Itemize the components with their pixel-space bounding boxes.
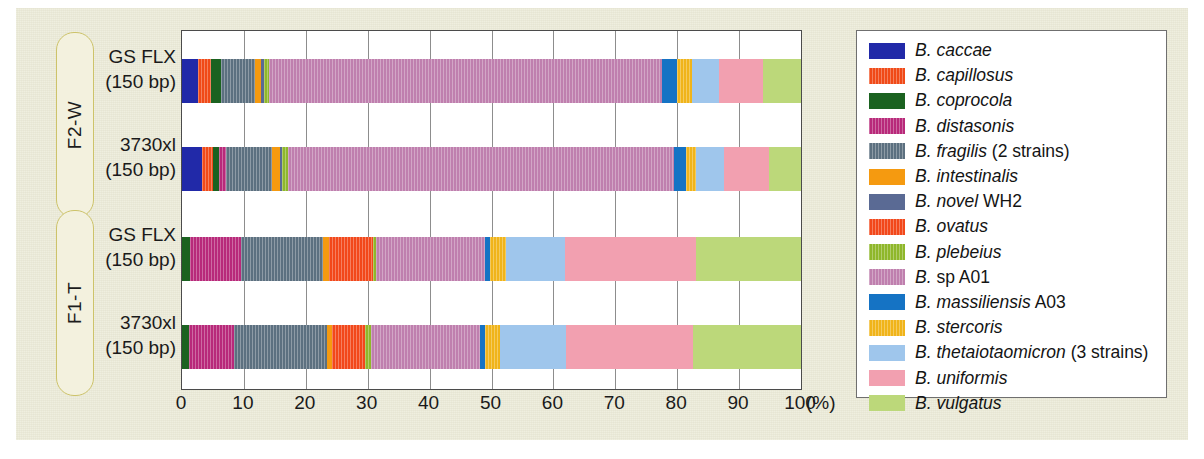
legend-swatch <box>869 194 905 210</box>
bar-segment <box>376 237 485 281</box>
legend-swatch <box>869 169 905 185</box>
x-tick-label: 80 <box>666 392 687 414</box>
bar-segment <box>506 237 564 281</box>
bar-segment <box>566 325 693 369</box>
row-label-platform: 3730xl <box>120 134 176 155</box>
bar-segment <box>226 147 272 191</box>
legend-swatch <box>869 143 905 159</box>
bar-segment <box>674 147 686 191</box>
legend-swatch <box>869 219 905 235</box>
bar-segment <box>190 237 241 281</box>
bar-segment <box>211 59 221 103</box>
bar-segment <box>763 59 801 103</box>
legend-label-species: B. coprocola <box>915 90 1012 110</box>
legend-label-species: B. uniformis <box>915 368 1007 388</box>
bar-segment <box>202 147 213 191</box>
bar-segment <box>490 237 506 281</box>
bar-segment <box>692 59 719 103</box>
legend-label: B. plebeius <box>915 242 1002 263</box>
bar-segment <box>696 147 723 191</box>
legend-label: B. sp A01 <box>915 267 990 288</box>
legend-label: B. caccae <box>915 40 992 61</box>
bar-segment <box>182 237 190 281</box>
segment-hatch <box>686 147 697 191</box>
legend-item[interactable]: B. stercoris <box>869 315 1158 340</box>
legend-label-species: B. fragilis <box>915 141 987 161</box>
legend-swatch <box>869 68 905 84</box>
legend-swatch-hatch <box>869 244 905 260</box>
bar-segment <box>198 59 211 103</box>
segment-hatch <box>490 237 506 281</box>
legend-label-suffix: sp A01 <box>932 267 990 287</box>
x-tick-label: 50 <box>480 392 501 414</box>
row-label-platform: GS FLX <box>108 224 176 245</box>
legend-swatch <box>869 294 905 310</box>
legend-item[interactable]: B. capillosus <box>869 63 1158 88</box>
legend-item[interactable]: B. distasonis <box>869 114 1158 139</box>
legend-label: B. intestinalis <box>915 166 1018 187</box>
legend-item[interactable]: B. plebeius <box>869 240 1158 265</box>
row-label: 3730xl(150 bp) <box>16 310 176 360</box>
legend-item[interactable]: B. sp A01 <box>869 265 1158 290</box>
legend-label-species: B. intestinalis <box>915 166 1018 186</box>
legend-label-species: B. vulgatus <box>915 393 1002 413</box>
legend-swatch <box>869 43 905 59</box>
segment-hatch <box>288 147 674 191</box>
legend-label: B. ovatus <box>915 216 988 237</box>
bar-segment <box>182 325 189 369</box>
legend-item[interactable]: B. novel WH2 <box>869 189 1158 214</box>
legend-item[interactable]: B. fragilis (2 strains) <box>869 139 1158 164</box>
segment-hatch <box>198 59 211 103</box>
bar-segment <box>769 147 801 191</box>
row-label-platform: 3730xl <box>120 312 176 333</box>
legend-item[interactable]: B. coprocola <box>869 88 1158 113</box>
bar-segment <box>485 325 500 369</box>
bar-segment <box>182 59 198 103</box>
legend-label-species: B. plebeius <box>915 242 1002 262</box>
legend-label: B. stercoris <box>915 317 1003 338</box>
legend-item[interactable]: B. massiliensis A03 <box>869 290 1158 315</box>
legend-item[interactable]: B. caccae <box>869 38 1158 63</box>
bar-segment <box>182 147 202 191</box>
legend-swatch-hatch <box>869 68 905 84</box>
legend-swatch <box>869 395 905 411</box>
legend-swatch-hatch <box>869 143 905 159</box>
segment-hatch <box>677 59 692 103</box>
segment-hatch <box>226 147 272 191</box>
legend-swatch <box>869 345 905 361</box>
bar-segment <box>269 59 663 103</box>
x-axis-unit-label: (%) <box>806 392 836 414</box>
stacked-bar <box>182 237 801 281</box>
legend-item[interactable]: B. vulgatus <box>869 391 1158 416</box>
legend-swatch <box>869 269 905 285</box>
legend-label-species: B. thetaiotaomicron <box>915 342 1066 362</box>
legend-label-species: B. distasonis <box>915 116 1014 136</box>
bar-segment <box>329 237 374 281</box>
legend-label: B. capillosus <box>915 65 1013 86</box>
legend-item[interactable]: B. intestinalis <box>869 164 1158 189</box>
legend-item[interactable]: B. ovatus <box>869 214 1158 239</box>
legend-label: B. uniformis <box>915 368 1007 389</box>
segment-hatch <box>241 237 323 281</box>
legend-label-species: B. <box>915 267 932 287</box>
legend-box: B. caccaeB. capillosusB. coprocolaB. dis… <box>856 30 1167 398</box>
segment-hatch <box>485 325 500 369</box>
stacked-bar <box>182 147 801 191</box>
legend-swatch <box>869 320 905 336</box>
legend-label: B. massiliensis A03 <box>915 292 1066 313</box>
segment-hatch <box>190 237 241 281</box>
legend-label-species: B. ovatus <box>915 216 988 236</box>
segment-hatch <box>329 237 374 281</box>
segment-hatch <box>219 147 226 191</box>
legend-label: B. distasonis <box>915 116 1014 137</box>
row-label: GS FLX(150 bp) <box>16 222 176 272</box>
bar-segment <box>241 237 323 281</box>
plot-area <box>181 30 802 390</box>
legend-label: B. vulgatus <box>915 393 1002 414</box>
legend-item[interactable]: B. thetaiotaomicron (3 strains) <box>869 340 1158 365</box>
x-axis-tick-labels: 0102030405060708090100 <box>181 392 800 418</box>
x-tick-label: 10 <box>232 392 253 414</box>
legend-item[interactable]: B. uniformis <box>869 365 1158 390</box>
segment-hatch <box>202 147 213 191</box>
row-label-readlength: (150 bp) <box>16 247 176 272</box>
